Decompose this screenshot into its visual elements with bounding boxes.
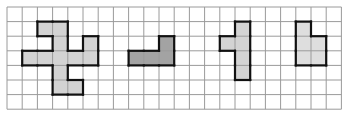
- grid-diagram: [0, 0, 350, 115]
- shape-plus-pinwheel: [22, 22, 98, 95]
